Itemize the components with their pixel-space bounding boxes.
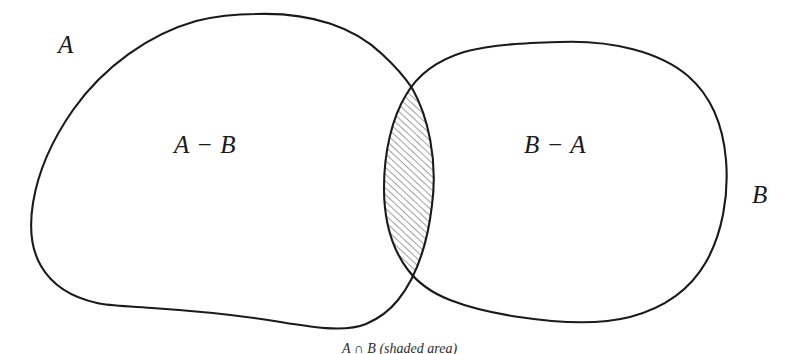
venn-diagram-figure: A B A − B B − A A ∩ B (shaded area)	[0, 0, 799, 354]
venn-diagram-canvas	[0, 0, 799, 354]
intersection-hatch-fill	[384, 42, 727, 323]
region-label-b-minus-a: B − A	[524, 132, 586, 157]
set-a-label: A	[58, 32, 73, 57]
set-a-outline	[31, 14, 434, 329]
region-a-intersect-b	[384, 42, 727, 323]
set-b-label: B	[752, 182, 767, 207]
set-b-outline	[384, 42, 727, 323]
region-label-a-minus-b: A − B	[174, 132, 236, 157]
figure-caption: A ∩ B (shaded area)	[0, 341, 799, 354]
